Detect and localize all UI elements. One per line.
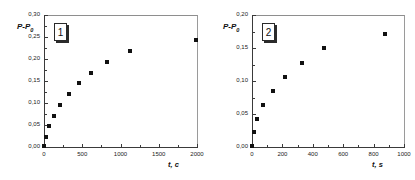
data-point bbox=[128, 49, 132, 53]
data-point bbox=[58, 103, 62, 107]
x-tick bbox=[404, 144, 405, 147]
x-tick-label: 800 bbox=[359, 151, 389, 157]
y-tick bbox=[253, 48, 256, 49]
y-minor-tick bbox=[45, 26, 47, 27]
y-tick-label: 0,05 bbox=[18, 121, 40, 127]
data-point bbox=[77, 81, 81, 85]
x-tick-label: 500 bbox=[67, 151, 97, 157]
chart-panel-2: P-P0 t, s 2 0,000,050,100,150,20 0200400… bbox=[208, 0, 415, 180]
x-tick-label: 400 bbox=[298, 151, 328, 157]
y-tick bbox=[253, 114, 256, 115]
x-tick bbox=[197, 144, 198, 147]
data-point bbox=[44, 135, 48, 139]
y-axis-title-sub-1: 0 bbox=[30, 27, 33, 33]
y-tick bbox=[45, 15, 48, 16]
data-point bbox=[252, 130, 256, 134]
y-tick bbox=[253, 81, 256, 82]
y-tick-label: 0,20 bbox=[226, 11, 248, 17]
y-minor-tick bbox=[45, 92, 47, 93]
y-tick-label: 0,10 bbox=[18, 99, 40, 105]
y-axis-title-2: P-P0 bbox=[223, 22, 239, 33]
y-tick-label: 0,15 bbox=[18, 77, 40, 83]
data-point bbox=[271, 89, 275, 93]
x-tick-label: 0 bbox=[29, 151, 59, 157]
x-minor-tick bbox=[101, 145, 102, 147]
x-minor-tick bbox=[298, 145, 299, 147]
data-point bbox=[194, 38, 198, 42]
y-minor-tick bbox=[45, 70, 47, 71]
x-tick-label: 600 bbox=[328, 151, 358, 157]
x-tick bbox=[159, 144, 160, 147]
data-point bbox=[67, 92, 71, 96]
data-point bbox=[250, 144, 254, 148]
y-tick bbox=[253, 15, 256, 16]
x-minor-tick bbox=[140, 145, 141, 147]
data-point bbox=[105, 60, 109, 64]
data-point bbox=[261, 103, 265, 107]
y-axis-title-main-2: P-P bbox=[223, 22, 236, 31]
x-axis-line-1 bbox=[44, 147, 198, 148]
x-minor-tick bbox=[358, 145, 359, 147]
x-tick-label: 1000 bbox=[106, 151, 136, 157]
x-tick-label: 0 bbox=[237, 151, 267, 157]
y-minor-tick bbox=[253, 32, 255, 33]
x-minor-tick bbox=[267, 145, 268, 147]
y-tick-label: 0,00 bbox=[18, 143, 40, 149]
y-minor-tick bbox=[253, 98, 255, 99]
x-tick-label: 1500 bbox=[144, 151, 174, 157]
y-tick-label: 0,10 bbox=[226, 77, 248, 83]
panel-badge-1: 1 bbox=[54, 23, 67, 41]
x-minor-tick bbox=[328, 145, 329, 147]
x-tick-label: 1000 bbox=[389, 151, 415, 157]
data-point bbox=[300, 61, 304, 65]
plot-frame-1 bbox=[44, 15, 198, 148]
y-tick bbox=[45, 81, 48, 82]
y-tick bbox=[45, 37, 48, 38]
data-point bbox=[52, 114, 56, 118]
x-axis-line-2 bbox=[252, 147, 405, 148]
x-tick-label: 200 bbox=[267, 151, 297, 157]
y-tick-label: 0,25 bbox=[18, 33, 40, 39]
x-minor-tick bbox=[389, 145, 390, 147]
data-point bbox=[255, 117, 259, 121]
y-axis-title-main-1: P-P bbox=[17, 22, 30, 31]
y-tick-label: 0,15 bbox=[226, 44, 248, 50]
x-axis-title-2: t, s bbox=[372, 160, 383, 169]
y-tick bbox=[45, 59, 48, 60]
data-point bbox=[89, 71, 93, 75]
data-point bbox=[42, 144, 46, 148]
x-tick bbox=[282, 144, 283, 147]
x-minor-tick bbox=[178, 145, 179, 147]
y-minor-tick bbox=[253, 65, 255, 66]
chart-panel-1: P-P0 t, c 1 0,000,050,100,150,200,250,30… bbox=[0, 0, 207, 180]
x-axis-title-1: t, c bbox=[168, 160, 179, 169]
x-minor-tick bbox=[63, 145, 64, 147]
y-tick bbox=[45, 103, 48, 104]
x-tick bbox=[82, 144, 83, 147]
data-point bbox=[283, 75, 287, 79]
data-point bbox=[383, 32, 387, 36]
panel-badge-2: 2 bbox=[262, 23, 275, 41]
y-tick-label: 0,20 bbox=[18, 55, 40, 61]
y-axis-title-sub-2: 0 bbox=[236, 27, 239, 33]
x-tick bbox=[313, 144, 314, 147]
y-tick-label: 0,05 bbox=[226, 110, 248, 116]
y-tick-label: 0,00 bbox=[226, 143, 248, 149]
x-tick bbox=[343, 144, 344, 147]
x-tick bbox=[121, 144, 122, 147]
y-minor-tick bbox=[45, 48, 47, 49]
figure-sheet: P-P0 t, c 1 0,000,050,100,150,200,250,30… bbox=[0, 0, 415, 180]
data-point bbox=[322, 46, 326, 50]
y-axis-title-1: P-P0 bbox=[17, 22, 33, 33]
y-tick-label: 0,30 bbox=[18, 11, 40, 17]
data-point bbox=[47, 124, 51, 128]
x-tick bbox=[374, 144, 375, 147]
y-minor-tick bbox=[45, 114, 47, 115]
